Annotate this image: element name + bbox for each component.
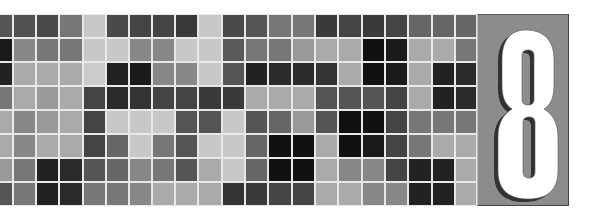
mosaic-cell bbox=[293, 63, 314, 85]
mosaic-cell bbox=[433, 63, 454, 85]
mosaic-cell bbox=[130, 87, 151, 109]
mosaic-cell bbox=[107, 63, 128, 85]
mosaic-cell bbox=[386, 15, 407, 37]
mosaic-cell bbox=[176, 183, 197, 205]
mosaic-cell bbox=[130, 159, 151, 181]
mosaic-cell bbox=[433, 87, 454, 109]
mosaic-cell bbox=[363, 111, 384, 133]
mosaic-cell bbox=[246, 183, 267, 205]
mosaic-cell bbox=[339, 135, 361, 157]
mosaic-cell bbox=[316, 39, 337, 61]
chapter-number-panel: 8 bbox=[477, 14, 569, 206]
mosaic-cell bbox=[293, 135, 314, 157]
mosaic-cell bbox=[363, 63, 384, 85]
mosaic-cell bbox=[199, 39, 221, 61]
mosaic-cell bbox=[246, 111, 267, 133]
mosaic-cell bbox=[176, 63, 197, 85]
mosaic-cell bbox=[176, 111, 197, 133]
mosaic-cell bbox=[386, 135, 407, 157]
mosaic-cell bbox=[130, 15, 151, 37]
mosaic-cell bbox=[316, 159, 337, 181]
mosaic-cell bbox=[386, 39, 407, 61]
mosaic-cell bbox=[339, 15, 361, 37]
mosaic-cell bbox=[386, 183, 407, 205]
mosaic-cell bbox=[60, 39, 82, 61]
mosaic-cell bbox=[0, 15, 12, 37]
mosaic-cell bbox=[316, 111, 337, 133]
mosaic-cell bbox=[84, 15, 105, 37]
mosaic-cell bbox=[153, 159, 174, 181]
mosaic-cell bbox=[37, 135, 58, 157]
mosaic-cell bbox=[456, 87, 476, 109]
mosaic-cell bbox=[293, 87, 314, 109]
mosaic-cell bbox=[130, 63, 151, 85]
mosaic-cell bbox=[433, 15, 454, 37]
mosaic-cell bbox=[84, 39, 105, 61]
mosaic-cell bbox=[246, 87, 267, 109]
mosaic-cell bbox=[199, 159, 221, 181]
mosaic-cell bbox=[130, 39, 151, 61]
mosaic-cell bbox=[14, 135, 35, 157]
mosaic-cell bbox=[409, 87, 431, 109]
mosaic-cell bbox=[269, 159, 291, 181]
mosaic-cell bbox=[130, 183, 151, 205]
mosaic-cell bbox=[456, 183, 476, 205]
mosaic-cell bbox=[199, 111, 221, 133]
mosaic-cell bbox=[293, 15, 314, 37]
mosaic-cell bbox=[339, 183, 361, 205]
mosaic-cell bbox=[293, 183, 314, 205]
mosaic-cell bbox=[456, 39, 476, 61]
mosaic-cell bbox=[153, 63, 174, 85]
mosaic-cell bbox=[14, 159, 35, 181]
mosaic-cell bbox=[0, 183, 12, 205]
mosaic-cell bbox=[153, 135, 174, 157]
mosaic-cell bbox=[60, 183, 82, 205]
mosaic-cell bbox=[456, 159, 476, 181]
mosaic-cell bbox=[433, 39, 454, 61]
mosaic-cell bbox=[246, 135, 267, 157]
mosaic-cell bbox=[60, 63, 82, 85]
mosaic-cell bbox=[363, 87, 384, 109]
mosaic-cell bbox=[176, 135, 197, 157]
mosaic-cell bbox=[339, 111, 361, 133]
mosaic-cell bbox=[339, 159, 361, 181]
mosaic-cell bbox=[60, 159, 82, 181]
mosaic-cell bbox=[60, 135, 82, 157]
mosaic-cell bbox=[199, 183, 221, 205]
mosaic-cell bbox=[14, 111, 35, 133]
mosaic-cell bbox=[176, 39, 197, 61]
mosaic-cell bbox=[84, 111, 105, 133]
mosaic-cell bbox=[0, 39, 12, 61]
mosaic-cell bbox=[433, 159, 454, 181]
mosaic-cell bbox=[316, 15, 337, 37]
mosaic-cell bbox=[433, 111, 454, 133]
mosaic-cell bbox=[107, 39, 128, 61]
mosaic-cell bbox=[246, 39, 267, 61]
mosaic-cell bbox=[84, 135, 105, 157]
mosaic-cell bbox=[269, 39, 291, 61]
mosaic-cell bbox=[339, 63, 361, 85]
mosaic-cell bbox=[60, 111, 82, 133]
mosaic-cell bbox=[84, 183, 105, 205]
mosaic-cell bbox=[60, 15, 82, 37]
chapter-number-glyph bbox=[478, 15, 570, 207]
mosaic-cell bbox=[456, 15, 476, 37]
mosaic-cell bbox=[199, 63, 221, 85]
mosaic-cell bbox=[269, 15, 291, 37]
mosaic-cell bbox=[316, 63, 337, 85]
mosaic-cell bbox=[199, 87, 221, 109]
mosaic-cell bbox=[14, 63, 35, 85]
mosaic-cell bbox=[107, 159, 128, 181]
mosaic-cell bbox=[269, 111, 291, 133]
mosaic-cell bbox=[363, 183, 384, 205]
mosaic-cell bbox=[107, 15, 128, 37]
mosaic-cell bbox=[456, 111, 476, 133]
mosaic-cell bbox=[269, 87, 291, 109]
mosaic-cell bbox=[363, 39, 384, 61]
mosaic-cell bbox=[223, 135, 244, 157]
mosaic-cell bbox=[409, 39, 431, 61]
mosaic-cell bbox=[386, 63, 407, 85]
mosaic-grid bbox=[0, 14, 478, 206]
mosaic-cell bbox=[84, 159, 105, 181]
mosaic-cell bbox=[409, 159, 431, 181]
